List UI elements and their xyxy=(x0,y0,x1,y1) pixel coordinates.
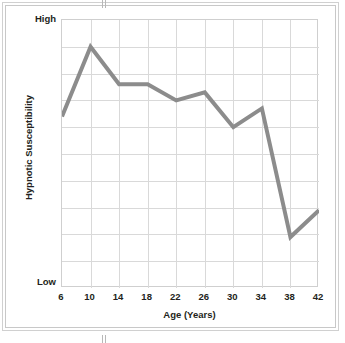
binding-mark-bottom xyxy=(100,335,110,343)
x-tick-label: 14 xyxy=(113,291,124,302)
x-tick-label: 30 xyxy=(227,291,238,302)
y-axis-title: Hypnotic Susceptibility xyxy=(23,68,34,228)
x-axis-tick-labels: 6101418222630343842 xyxy=(61,291,318,305)
x-tick-label: 22 xyxy=(170,291,181,302)
x-tick-label: 34 xyxy=(256,291,267,302)
x-tick-label: 26 xyxy=(198,291,209,302)
binding-mark-top xyxy=(100,0,110,8)
y-axis-high-label: High xyxy=(14,13,56,24)
data-line-series xyxy=(62,20,319,288)
x-tick-label: 42 xyxy=(313,291,324,302)
x-tick-label: 10 xyxy=(84,291,95,302)
x-tick-label: 38 xyxy=(284,291,295,302)
y-axis-low-label: Low xyxy=(14,276,56,287)
x-tick-label: 6 xyxy=(58,291,63,302)
x-axis-title: Age (Years) xyxy=(61,309,318,320)
x-tick-label: 18 xyxy=(141,291,152,302)
plot-area xyxy=(61,19,318,287)
chart-figure: High Low Hypnotic Susceptibility 6101418… xyxy=(0,0,345,343)
